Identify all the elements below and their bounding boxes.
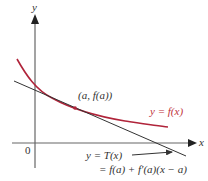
label-pointer-arrow [132, 152, 172, 155]
tangent-line-diagram: y x 0 (a, f(a)) y = f(x) y = T(x) = f(a)… [0, 0, 208, 181]
tangent-label-line2: = f(a) + f′(a)(x − a) [99, 164, 187, 175]
tangent-label-line1: y = T(x) [86, 150, 122, 161]
x-axis-arrow-icon [188, 139, 197, 147]
point-label: (a, f(a)) [78, 90, 112, 101]
tangency-point [73, 106, 77, 110]
curve-label: y = f(x) [150, 106, 183, 117]
x-axis-label: x [199, 137, 204, 148]
y-axis-arrow-icon [31, 14, 39, 24]
y-axis-label: y [32, 2, 37, 13]
origin-label: 0 [25, 145, 31, 156]
